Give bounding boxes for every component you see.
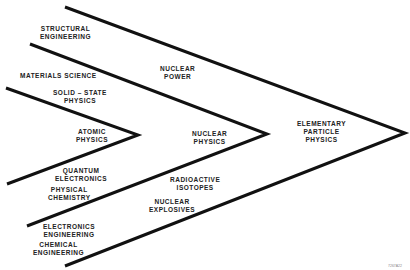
label-atomic-physics: ATOMIC PHYSICS (76, 128, 108, 144)
label-chemical-engineering: CHEMICAL ENGINEERING (33, 241, 84, 257)
diagram-canvas: STRUCTURAL ENGINEERING MATERIALS SCIENCE… (0, 0, 410, 270)
label-line: MATERIALS SCIENCE (20, 72, 97, 80)
label-electronics-engineering: ELECTRONICS ENGINEERING (43, 223, 95, 239)
label-line: NUCLEAR (149, 198, 195, 206)
label-physical-chemistry: PHYSICAL CHEMISTRY (48, 186, 91, 202)
label-line: CHEMICAL (33, 241, 84, 249)
label-line: PHYSICAL (48, 186, 91, 194)
label-line: SOLID – STATE (53, 89, 107, 97)
label-line: STRUCTURAL (40, 25, 91, 33)
label-line: NUCLEAR (192, 130, 227, 138)
label-line: PARTICLE (297, 128, 346, 136)
label-line: ENGINEERING (33, 249, 84, 257)
label-structural-engineering: STRUCTURAL ENGINEERING (40, 25, 91, 41)
label-line: ISOTOPES (170, 184, 220, 192)
label-line: CHEMISTRY (48, 194, 91, 202)
figure-id: 7267A22 (388, 264, 402, 268)
label-line: QUANTUM (55, 167, 107, 175)
label-solid-state-physics: SOLID – STATE PHYSICS (53, 89, 107, 105)
label-nuclear-explosives: NUCLEAR EXPLOSIVES (149, 198, 195, 214)
label-line: ATOMIC (76, 128, 108, 136)
label-line: ELECTRONICS (43, 223, 95, 231)
label-line: ENGINEERING (40, 33, 91, 41)
label-nuclear-physics: NUCLEAR PHYSICS (192, 130, 227, 146)
label-quantum-electronics: QUANTUM ELECTRONICS (55, 167, 107, 183)
label-line: POWER (160, 73, 195, 81)
label-elementary-particle-physics: ELEMENTARY PARTICLE PHYSICS (297, 120, 346, 144)
label-materials-science: MATERIALS SCIENCE (20, 72, 97, 80)
label-radioactive-isotopes: RADIOACTIVE ISOTOPES (170, 176, 220, 192)
label-nuclear-power: NUCLEAR POWER (160, 65, 195, 81)
label-line: PHYSICS (53, 97, 107, 105)
label-line: NUCLEAR (160, 65, 195, 73)
label-line: ELEMENTARY (297, 120, 346, 128)
label-line: ELECTRONICS (55, 175, 107, 183)
label-line: EXPLOSIVES (149, 206, 195, 214)
label-line: PHYSICS (192, 138, 227, 146)
label-line: PHYSICS (76, 136, 108, 144)
label-line: RADIOACTIVE (170, 176, 220, 184)
label-line: PHYSICS (297, 136, 346, 144)
label-line: ENGINEERING (43, 231, 95, 239)
outer-chevron (65, 7, 405, 266)
